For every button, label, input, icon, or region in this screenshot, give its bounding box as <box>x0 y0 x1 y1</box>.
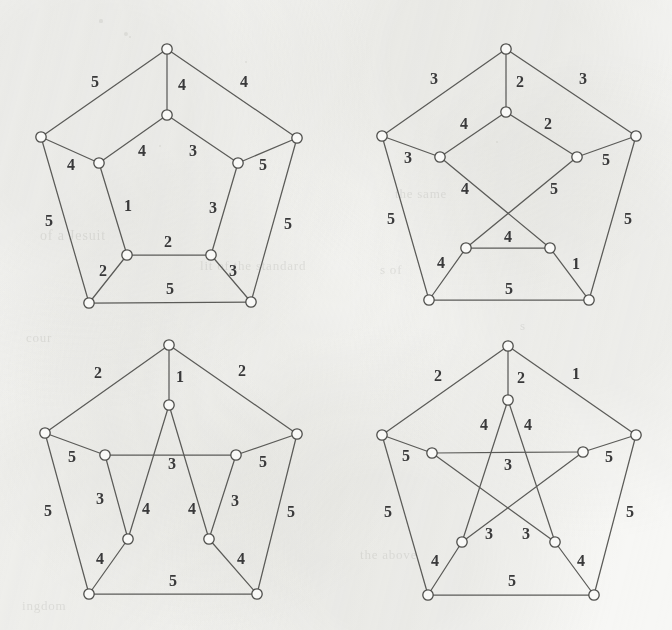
graph-top-left: 545554532443321 <box>0 0 336 320</box>
graph-edge <box>432 453 555 542</box>
edge-weight-label: 3 <box>168 455 176 472</box>
graph-bottom-right: 215552544544333 <box>336 310 672 630</box>
edge-weight-label: 4 <box>460 115 468 132</box>
edge-weight-label: 4 <box>178 76 186 93</box>
edge-weight-label: 3 <box>189 142 197 159</box>
graph-vertex <box>550 537 560 547</box>
graph-vertex <box>501 44 511 54</box>
vertex-layer <box>36 44 302 308</box>
graph-edge <box>89 539 128 594</box>
edge-weight-label: 3 <box>522 525 530 542</box>
edge-weight-label: 4 <box>437 254 445 271</box>
graph-vertex <box>94 158 104 168</box>
edge-weight-label: 2 <box>94 364 102 381</box>
edge-weight-label: 5 <box>387 210 395 227</box>
edge-weight-label: 5 <box>68 448 76 465</box>
edge-weight-label: 2 <box>238 362 246 379</box>
graph-edge <box>506 112 577 157</box>
graph-edge <box>128 405 169 539</box>
graph-edge <box>169 405 209 539</box>
graph-edge <box>89 255 127 303</box>
edge-weight-label: 5 <box>624 210 632 227</box>
graph-vertex <box>122 250 132 260</box>
graph-vertex <box>435 152 445 162</box>
edge-weight-label: 5 <box>505 280 513 297</box>
figure-grid: 5455545324433213355525143425442255515445… <box>0 0 672 630</box>
edge-weight-label: 5 <box>402 447 410 464</box>
graph-vertex <box>589 590 599 600</box>
graph-top-right: 335552514342544 <box>336 0 672 320</box>
edge-weight-label: 5 <box>602 151 610 168</box>
edge-weight-label: 5 <box>91 73 99 90</box>
edge-weight-label: 2 <box>517 369 525 386</box>
graph-vertex <box>424 295 434 305</box>
edge-weight-label: 3 <box>209 199 217 216</box>
graph-vertex <box>545 243 555 253</box>
graph-vertex <box>377 131 387 141</box>
edge-weight-label: 5 <box>626 503 634 520</box>
graph-edge <box>440 157 550 248</box>
graph-edge <box>99 163 127 255</box>
edge-weight-label: 5 <box>384 503 392 520</box>
graph-edge <box>440 112 506 157</box>
graph-vertex <box>423 590 433 600</box>
graph-vertex <box>84 589 94 599</box>
edge-weight-label: 4 <box>577 552 585 569</box>
graph-vertex <box>631 131 641 141</box>
edge-weight-label: 1 <box>572 255 580 272</box>
edge-weight-label: 4 <box>188 500 196 517</box>
edge-weight-label: 4 <box>431 552 439 569</box>
graph-vertex <box>457 537 467 547</box>
graph-vertex <box>231 450 241 460</box>
graph-edge <box>466 157 577 248</box>
graph-vertex <box>162 44 172 54</box>
edge-weight-label: 2 <box>516 73 524 90</box>
graph-edge <box>209 539 257 594</box>
edge-layer <box>41 49 297 303</box>
graph-edge <box>550 248 589 300</box>
graph-vertex <box>292 429 302 439</box>
graph-vertex <box>246 297 256 307</box>
graph-vertex <box>36 132 46 142</box>
graph-vertex <box>292 133 302 143</box>
graph-vertex <box>461 243 471 253</box>
graph-vertex <box>123 534 133 544</box>
graph-edge <box>555 542 594 595</box>
graph-vertex <box>377 430 387 440</box>
graph-vertex <box>162 110 172 120</box>
edge-weight-label: 2 <box>434 367 442 384</box>
edge-weight-label: 1 <box>572 365 580 382</box>
edge-weight-label: 5 <box>550 180 558 197</box>
graph-vertex <box>572 152 582 162</box>
graph-vertex <box>578 447 588 457</box>
graph-edge <box>105 455 128 539</box>
graph-vertex <box>84 298 94 308</box>
edge-weight-label: 4 <box>138 142 146 159</box>
graph-vertex <box>252 589 262 599</box>
edge-weight-label: 5 <box>259 453 267 470</box>
graph-edge <box>382 49 506 136</box>
edge-weight-label: 5 <box>287 503 295 520</box>
edge-label-layer: 335552514342544 <box>387 70 632 297</box>
graph-vertex <box>233 158 243 168</box>
edge-weight-label: 5 <box>508 572 516 589</box>
edge-weight-label: 5 <box>44 502 52 519</box>
edge-weight-label: 4 <box>240 73 248 90</box>
edge-weight-label: 2 <box>164 233 172 250</box>
edge-weight-label: 5 <box>45 212 53 229</box>
edge-label-layer: 545554532443321 <box>45 73 292 297</box>
graph-edge <box>89 302 251 303</box>
vertex-layer <box>377 44 641 305</box>
graph-edge <box>41 49 167 137</box>
graph-vertex <box>501 107 511 117</box>
graph-edge <box>167 115 238 163</box>
graph-vertex <box>503 395 513 405</box>
graph-edge <box>432 452 583 453</box>
edge-weight-label: 5 <box>259 156 267 173</box>
graph-edge <box>429 248 466 300</box>
graph-vertex <box>204 534 214 544</box>
graph-edge <box>382 346 508 435</box>
graph-vertex <box>164 340 174 350</box>
edge-weight-label: 3 <box>231 492 239 509</box>
edge-weight-label: 4 <box>461 180 469 197</box>
